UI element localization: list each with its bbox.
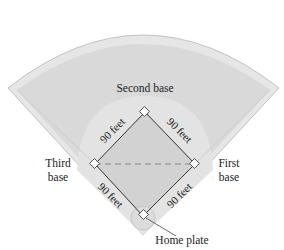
first-base-label-line1: First xyxy=(218,157,240,169)
baseball-field-diagram: Second base Third base First base Home p… xyxy=(0,0,284,250)
first-base-label-line2: base xyxy=(219,171,239,183)
home-plate-label: Home plate xyxy=(155,234,208,247)
third-base-label-line2: base xyxy=(48,171,68,183)
third-base-label-line1: Third xyxy=(45,157,71,169)
second-base-label: Second base xyxy=(116,82,173,94)
